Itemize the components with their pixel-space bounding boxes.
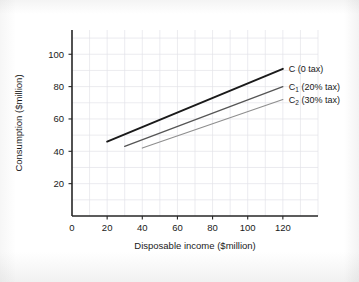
y-tick-label: 80 (53, 81, 64, 92)
y-tick-label: 60 (53, 113, 64, 124)
x-tick-label: 120 (275, 222, 291, 233)
y-axis-title: Consumption ($million) (13, 74, 24, 171)
x-tick-label: 80 (207, 222, 218, 233)
y-tick-label: 100 (48, 49, 64, 60)
x-axis-title: Disposable income ($million) (134, 240, 255, 251)
x-tick-label: 60 (172, 222, 183, 233)
chart-figure: 020406080100120 20406080100 C (0 tax)C1 … (0, 0, 359, 282)
y-tick-label: 40 (53, 146, 64, 157)
x-tick-label: 40 (137, 222, 148, 233)
x-tick-label: 20 (102, 222, 113, 233)
series-label: C (0 tax) (289, 64, 324, 74)
x-tick-labels: 020406080100120 (69, 222, 290, 233)
y-tick-label: 20 (53, 178, 64, 189)
y-tick-labels: 20406080100 (48, 49, 64, 189)
consumption-line-chart: 020406080100120 20406080100 C (0 tax)C1 … (0, 0, 359, 282)
series-label-text: C (0 tax) (289, 64, 324, 74)
x-tick-label: 100 (240, 222, 256, 233)
x-tick-label: 0 (69, 222, 74, 233)
